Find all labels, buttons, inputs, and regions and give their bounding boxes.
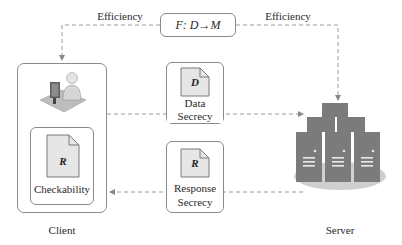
efficiency-label-right: Efficiency: [258, 10, 318, 23]
function-text: F: D→M: [161, 14, 235, 36]
function-box: F: D→M: [160, 13, 236, 37]
document-letter: D: [180, 76, 210, 88]
checkability-box: R Checkability: [30, 127, 94, 205]
user-at-computer-icon: [36, 70, 92, 114]
response-secrecy-label-2: Secrecy: [167, 196, 223, 209]
response-secrecy-label-1: Response: [167, 182, 223, 195]
document-letter: R: [46, 155, 80, 167]
client-label: Client: [17, 224, 107, 237]
data-secrecy-label-1: Data: [167, 97, 223, 110]
efficiency-label-left: Efficiency: [90, 10, 150, 23]
response-secrecy-box: R Response Secrecy: [166, 141, 224, 213]
document-letter: R: [180, 157, 210, 169]
data-secrecy-box: D Data Secrecy: [166, 62, 224, 124]
checkability-label: Checkability: [31, 183, 93, 196]
server-label: Server: [300, 224, 380, 237]
data-secrecy-label-2: Secrecy: [167, 110, 223, 123]
client-box: R Checkability: [17, 63, 107, 213]
server-cluster-icon: [290, 100, 390, 192]
